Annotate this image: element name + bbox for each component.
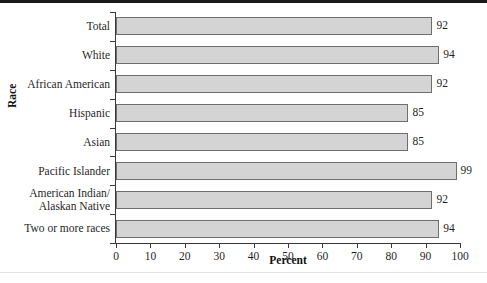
y-axis-tick — [110, 156, 116, 157]
bar-value-label: 92 — [436, 77, 448, 89]
x-axis-tick — [288, 243, 289, 248]
bar-value-label: 94 — [443, 222, 455, 234]
bar-value-label: 92 — [436, 193, 448, 205]
bar-value-label: 94 — [443, 48, 455, 60]
bar-value-label: 99 — [461, 164, 473, 176]
y-axis-tick — [110, 243, 116, 244]
bar-row: 85 — [116, 104, 460, 122]
bar-row: 85 — [116, 133, 460, 151]
bar — [116, 17, 432, 35]
x-axis-tick — [391, 243, 392, 248]
x-axis-tick — [116, 243, 117, 248]
y-axis-tick — [110, 185, 116, 186]
bar-value-label: 85 — [412, 135, 424, 147]
category-label: American Indian/Alaskan Native — [2, 187, 110, 212]
bar — [116, 75, 432, 93]
category-label: Hispanic — [2, 107, 110, 120]
bar-row: 94 — [116, 220, 460, 238]
bar — [116, 191, 432, 209]
bar-row: 92 — [116, 17, 460, 35]
category-label: Two or more races — [2, 222, 110, 235]
category-label: African American — [2, 78, 110, 91]
bar-row: 99 — [116, 162, 460, 180]
bar-chart-figure: Race TotalWhiteAfrican AmericanHispanicA… — [0, 0, 487, 283]
category-label-layer: TotalWhiteAfrican AmericanHispanicAsianP… — [0, 12, 110, 243]
bar-value-label: 92 — [436, 19, 448, 31]
y-axis-tick — [110, 70, 116, 71]
category-label-line: Hispanic — [2, 107, 110, 120]
bar — [116, 133, 408, 151]
x-axis-tick — [322, 243, 323, 248]
y-axis-tick — [110, 99, 116, 100]
bar — [116, 46, 439, 64]
x-axis-tick — [426, 243, 427, 248]
bar-value-label: 85 — [412, 106, 424, 118]
bar-row: 92 — [116, 191, 460, 209]
bar-row: 94 — [116, 46, 460, 64]
category-label-line: Alaskan Native — [2, 200, 110, 213]
plot-area: 01020304050607080901009294928585999294 — [116, 12, 460, 243]
category-label-line: African American — [2, 78, 110, 91]
category-label-line: Two or more races — [2, 222, 110, 235]
category-label: Asian — [2, 136, 110, 149]
category-label-line: Asian — [2, 136, 110, 149]
x-axis-tick — [219, 243, 220, 248]
bar — [116, 104, 408, 122]
category-label-line: American Indian/ — [2, 187, 110, 200]
category-label-line: Pacific Islander — [2, 165, 110, 178]
x-axis-tick — [185, 243, 186, 248]
category-label: Total — [2, 20, 110, 33]
bar — [116, 220, 439, 238]
x-axis-tick — [460, 243, 461, 248]
category-label: White — [2, 49, 110, 62]
category-label-line: Total — [2, 20, 110, 33]
x-axis-title: Percent — [116, 254, 460, 266]
category-label: Pacific Islander — [2, 165, 110, 178]
x-axis-tick — [357, 243, 358, 248]
figure-top-rule — [0, 0, 487, 3]
category-label-line: White — [2, 49, 110, 62]
x-axis-tick — [254, 243, 255, 248]
figure-bottom-rule — [0, 272, 487, 273]
y-axis-tick — [110, 214, 116, 215]
y-axis-tick — [110, 128, 116, 129]
y-axis-tick — [110, 12, 116, 13]
bar — [116, 162, 457, 180]
x-axis-tick — [150, 243, 151, 248]
bar-row: 92 — [116, 75, 460, 93]
y-axis-tick — [110, 41, 116, 42]
